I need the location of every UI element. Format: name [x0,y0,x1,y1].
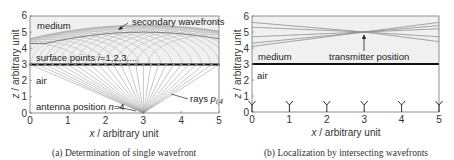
ray [136,64,144,113]
surface-point [203,63,206,66]
x-axis-label: x / arbitrary unit [89,128,159,139]
caption-b: (b) Localization by intersecting wavefro… [264,148,428,159]
x-axis-label: x / arbitrary unit [311,127,381,138]
x-tick-label: 3 [361,114,367,125]
label-antenna-position: antenna position n=4 [36,101,125,112]
surface-point [165,63,168,66]
x-tick-label: 0 [27,115,33,126]
y-tick-label: 4 [243,43,249,54]
y-tick-label: 0 [243,107,249,118]
surface-point [59,63,62,66]
label-medium: medium [258,51,292,62]
antenna-icon [398,101,405,112]
y-tick-label: 3 [243,59,249,70]
panel-b: 0123450123456 medium transmitter positio… [232,11,443,160]
x-tick-label: 5 [436,114,442,125]
y-tick-label: 2 [243,75,249,86]
y-tick-label: 6 [243,11,249,22]
ray [143,64,203,113]
y-tick-label: 0 [21,108,27,119]
y-tick-label: 1 [243,91,249,102]
surface-point [112,63,115,66]
label-rays: rays pi,4 [190,93,223,105]
x-tick-label: 2 [324,114,330,125]
ray [143,64,188,113]
y-tick-label: 5 [21,27,27,38]
ray [143,64,173,113]
y-tick-label: 5 [243,27,249,38]
surface-point [119,63,122,66]
x-tick-label: 3 [141,115,147,126]
antenna-icon [286,101,293,112]
surface-point [51,63,54,66]
label-air: air [36,75,47,86]
label-air: air [257,70,268,81]
y-tick-label: 2 [21,75,27,86]
antennas [249,101,443,112]
x-tick-label: 2 [103,115,109,126]
label-secondary-wavefronts: secondary wavefronts [132,16,225,27]
y-axis-label: z / arbitrary unit [10,29,21,99]
y-tick-label: 4 [21,43,27,54]
x-tick-label: 0 [249,114,255,125]
surface-point [157,63,160,66]
surface-point [142,63,145,66]
arrow-rays [171,94,188,99]
y-axis-label: z / arbitrary unit [232,29,243,99]
surface-point [82,63,85,66]
ray [143,64,151,113]
ray [143,64,196,113]
surface-point [150,63,153,66]
y-tick-label: 3 [21,59,27,70]
label-surface-points: surface points i=1,2,3,... [36,52,137,63]
surface-point [67,63,70,66]
antenna-icon [323,101,330,112]
caption-a: (a) Determination of single wavefront [52,148,196,159]
surface-point [36,63,39,66]
surface-point [127,63,130,66]
surface-point [172,63,175,66]
label-transmitter-position: transmitter position [329,51,409,62]
surface-point [180,63,183,66]
x-tick-label: 4 [178,115,184,126]
x-tick-label: 1 [287,114,293,125]
surface-point [195,63,198,66]
label-medium: medium [37,20,71,31]
surface-point [44,63,47,66]
ray [143,64,181,113]
surface-point [74,63,77,66]
x-tick-label: 4 [399,114,405,125]
antenna-icon [361,101,368,112]
surface-point [210,63,213,66]
y-tick-label: 1 [21,91,27,102]
figure: 0123450123456 medium secondary wavefront… [0,0,454,160]
surface-point [187,63,190,66]
surface-point [135,63,138,66]
surface-point [97,63,100,66]
surface-point [104,63,107,66]
surface-point [89,63,92,66]
ray [143,64,211,113]
y-tick-label: 6 [21,10,27,21]
x-tick-label: 5 [216,115,222,126]
x-tick-label: 1 [65,115,71,126]
